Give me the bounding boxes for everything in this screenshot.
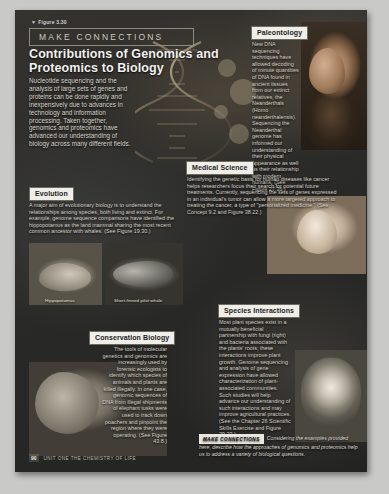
panel-text-species-interactions: Most plant species exist in a mutually b… <box>219 319 291 438</box>
figure-number-label: Figure 3.30 <box>38 19 67 25</box>
panel-label-medical-science: Medical Science <box>186 161 254 175</box>
panel-label-species-interactions: Species Interactions <box>218 304 300 318</box>
make-connections-banner-label: MAKE CONNECTIONS <box>30 32 163 42</box>
panel-label-evolution: Evolution <box>29 187 74 201</box>
photo-neanderthal <box>301 22 367 150</box>
textbook-page-sheet: ▼Figure 3.30 MAKE CONNECTIONS Contributi… <box>15 10 367 472</box>
figure-marker-icon: ▼ <box>31 19 36 25</box>
footer-page-number: 90 <box>29 454 39 462</box>
photo-hippopotamus <box>29 243 102 305</box>
footer-running-head: UNIT ONE THE CHEMISTRY OF LIFE <box>44 456 137 461</box>
caption-hippopotamus: Hippopotamus <box>45 298 75 303</box>
panel-label-conservation-biology: Conservation Biology <box>89 331 175 345</box>
panel-text-conservation-biology: The tools of molecular genetics and geno… <box>101 346 167 445</box>
panel-text-evolution: A major aim of evolutionary biology is t… <box>29 202 181 235</box>
page-root: ▼Figure 3.30 MAKE CONNECTIONS Contributi… <box>0 0 389 494</box>
make-connections-question-tag: MAKE CONNECTIONS <box>199 434 264 444</box>
photo-mycorrhizae <box>295 350 367 442</box>
page-footer: 90 UNIT ONE THE CHEMISTRY OF LIFE <box>29 454 136 462</box>
make-connections-question: MAKE CONNECTIONSConsidering the examples… <box>199 434 359 458</box>
photo-pilot-whale <box>105 243 183 305</box>
panel-label-paleontology: Paleontology <box>251 26 308 40</box>
make-connections-banner: MAKE CONNECTIONS <box>29 28 194 46</box>
figure-number: ▼Figure 3.30 <box>31 19 67 25</box>
caption-pilot-whale: Short-finned pilot whale <box>114 298 162 303</box>
figure-intro-text: Nucleotide sequencing and the analysis o… <box>29 77 132 148</box>
panel-text-medical-science: Identifying the genetic basis for human … <box>187 176 339 216</box>
panel-text-paleontology: New DNA sequencing techniques have allow… <box>252 41 299 193</box>
figure-title: Contributions of Genomics and Proteomics… <box>29 48 229 75</box>
